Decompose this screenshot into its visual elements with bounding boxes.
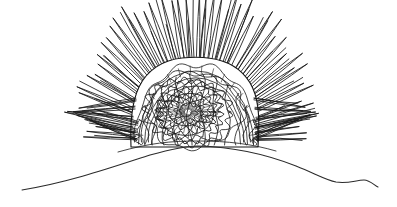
artwork-canvas: [0, 0, 397, 207]
line-art-illustration: [0, 0, 397, 207]
